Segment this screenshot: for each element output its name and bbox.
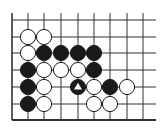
black-stone (86, 45, 101, 60)
white-stone (102, 96, 117, 111)
white-stone (119, 79, 134, 94)
black-stone (20, 62, 35, 77)
black-stone (20, 79, 35, 94)
white-stone (36, 79, 51, 94)
black-stone (53, 45, 68, 60)
white-stone (86, 79, 101, 94)
white-stone (20, 29, 35, 44)
white-stone (36, 29, 51, 44)
black-stone (102, 79, 117, 94)
white-stone (70, 62, 85, 77)
black-stone (86, 62, 101, 77)
black-stone (20, 96, 35, 111)
white-stone (53, 62, 68, 77)
black-stone (36, 45, 51, 60)
white-stone (36, 62, 51, 77)
black-stone (70, 79, 85, 94)
white-stone (86, 96, 101, 111)
white-stone (20, 45, 35, 60)
go-board-diagram (0, 0, 166, 136)
white-stone (36, 96, 51, 111)
black-stone (70, 45, 85, 60)
